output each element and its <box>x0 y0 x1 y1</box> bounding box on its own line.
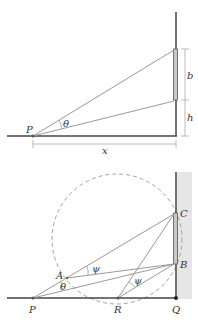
label-theta: θ <box>60 281 66 292</box>
top-figure: P θ b h x <box>7 12 193 156</box>
diagram-canvas: P θ b h x P R Q A B C θ ψ ψ <box>0 0 198 327</box>
board <box>174 213 178 264</box>
sight-line-bottom <box>33 101 174 136</box>
board <box>174 49 178 100</box>
wall-hatch <box>177 172 192 299</box>
point-r-marker <box>117 297 120 300</box>
label-p: P <box>25 124 33 135</box>
label-b: B <box>179 259 187 270</box>
line-r-c <box>118 214 174 298</box>
label-x: x <box>102 145 108 156</box>
theta-arc <box>59 120 62 129</box>
dashed-circle <box>52 174 182 304</box>
line-a-b <box>67 264 174 278</box>
label-theta: θ <box>63 118 69 129</box>
bottom-figure: P R Q A B C θ ψ ψ <box>7 172 192 315</box>
point-a-marker <box>66 277 69 280</box>
label-psi-r: ψ <box>134 275 142 286</box>
label-p: P <box>28 304 36 315</box>
point-p-marker <box>32 297 35 300</box>
line-r-b <box>118 264 174 298</box>
label-psi-a: ψ <box>92 263 100 274</box>
label-c: C <box>180 208 188 219</box>
point-q-marker <box>174 296 178 300</box>
sight-line-top <box>33 50 174 136</box>
label-b: b <box>187 70 193 81</box>
label-a: A <box>55 270 63 281</box>
label-h: h <box>187 112 193 123</box>
label-q: Q <box>172 304 180 315</box>
line-p-c <box>33 214 174 298</box>
label-r: R <box>113 304 122 315</box>
psi-arc-a <box>87 266 88 275</box>
